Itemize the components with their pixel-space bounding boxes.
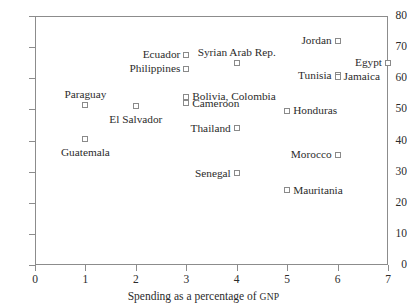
data-point-marker	[234, 60, 240, 66]
y-axis-tick	[29, 78, 35, 79]
y-axis-tick	[29, 234, 35, 235]
y-axis-tick-label: 0	[383, 259, 407, 271]
x-axis-tick	[35, 265, 36, 271]
x-axis-title-gnp: GNP	[260, 291, 280, 302]
data-point-label: Thailand	[191, 123, 231, 134]
data-point-label: Jamaica	[344, 71, 380, 82]
data-point-label: Tunisia	[298, 70, 332, 81]
x-axis-tick	[237, 265, 238, 271]
data-point-marker	[284, 108, 290, 114]
data-point-label: Ecuador	[143, 49, 181, 60]
data-point-label: Honduras	[293, 105, 337, 116]
data-point-label: Guatemala	[61, 147, 110, 158]
data-point-marker	[234, 125, 240, 131]
data-point-label: Cameroon	[192, 98, 239, 109]
x-axis-tick	[136, 265, 137, 271]
y-axis-tick	[29, 109, 35, 110]
x-axis-tick-label: 0	[25, 274, 45, 286]
data-point-marker	[335, 38, 341, 44]
data-point-label: Senegal	[195, 168, 231, 179]
y-axis-tick	[29, 203, 35, 204]
y-axis-tick-label: 30	[383, 166, 407, 178]
data-point-marker	[183, 66, 189, 72]
data-point-marker	[183, 100, 189, 106]
x-axis-title: Spending as a percentage of GNP	[0, 290, 407, 303]
x-axis-tick-label: 6	[328, 274, 348, 286]
data-point-marker	[183, 52, 189, 58]
x-axis-title-main: Spending as a percentage of	[128, 290, 260, 302]
y-axis-tick-label: 80	[383, 10, 407, 22]
x-axis-tick-label: 5	[277, 274, 297, 286]
y-axis-tick	[29, 141, 35, 142]
x-axis-tick-label: 4	[227, 274, 247, 286]
x-axis-tick	[287, 265, 288, 271]
data-point-marker	[82, 102, 88, 108]
data-point-marker	[183, 94, 189, 100]
data-point-marker	[385, 60, 391, 66]
x-axis-tick	[338, 265, 339, 271]
data-point-marker	[133, 103, 139, 109]
y-axis-tick-label: 20	[383, 197, 407, 209]
x-axis-tick	[388, 265, 389, 271]
data-point-label: Jordan	[301, 35, 331, 46]
data-point-label: El Salvador	[109, 114, 162, 125]
data-point-label: Morocco	[291, 149, 332, 160]
y-axis-tick	[29, 172, 35, 173]
y-axis-tick	[29, 16, 35, 17]
data-point-label: Mauritania	[293, 185, 343, 196]
x-axis-tick-label: 7	[378, 274, 398, 286]
y-axis-tick-label: 40	[383, 135, 407, 147]
data-point-label: Paraguay	[64, 89, 106, 100]
y-axis-tick-label: 70	[383, 41, 407, 53]
x-axis-tick-label: 3	[176, 274, 196, 286]
x-axis-tick	[85, 265, 86, 271]
data-point-marker	[82, 136, 88, 142]
data-point-marker	[335, 152, 341, 158]
y-axis-tick-label: 50	[383, 103, 407, 115]
data-point-marker	[234, 170, 240, 176]
data-point-marker	[335, 74, 341, 80]
scatter-plot-figure: 01020304050607080 01234567 JordanEcuador…	[0, 0, 407, 307]
y-axis-tick-label: 10	[383, 228, 407, 240]
data-point-label: Syrian Arab Rep.	[198, 47, 276, 58]
y-axis-tick	[29, 47, 35, 48]
y-axis-tick-label: 60	[383, 72, 407, 84]
x-axis-tick-label: 2	[126, 274, 146, 286]
x-axis-tick	[186, 265, 187, 271]
data-point-label: Philippines	[129, 63, 180, 74]
x-axis-tick-label: 1	[75, 274, 95, 286]
data-point-label: Egypt	[355, 57, 382, 68]
data-point-marker	[284, 187, 290, 193]
